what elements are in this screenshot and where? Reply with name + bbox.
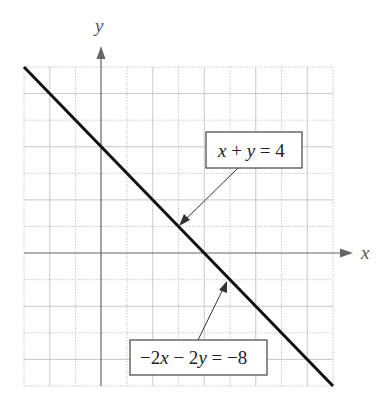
arrow-line bbox=[183, 168, 238, 222]
arrow-head-icon bbox=[219, 281, 227, 293]
equation-label-2: −2x − 2y = −8 bbox=[140, 347, 247, 368]
x-axis-label: x bbox=[360, 242, 370, 263]
annotation-eq1: x + y = 4 bbox=[179, 132, 302, 226]
y-axis-label: y bbox=[93, 15, 104, 36]
line-graph: x y x + y = 4 −2x − 2y = −8 bbox=[0, 0, 382, 412]
y-axis-arrow-icon bbox=[97, 46, 106, 59]
x-axis-arrow-icon bbox=[340, 249, 353, 258]
arrow-head-icon bbox=[179, 214, 190, 226]
equation-label-1: x + y = 4 bbox=[217, 140, 285, 161]
arrow-line bbox=[198, 287, 224, 340]
